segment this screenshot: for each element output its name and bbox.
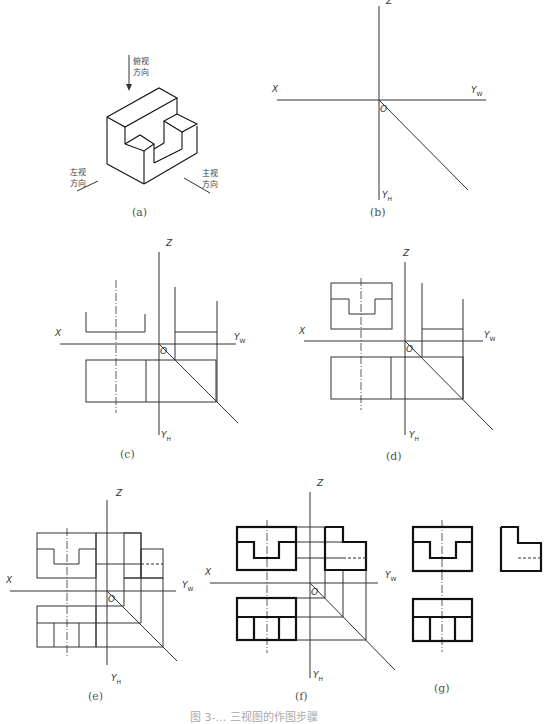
panel-label: (a) xyxy=(132,206,147,219)
origin-label: O xyxy=(406,344,413,354)
origin-label: O xyxy=(108,594,115,604)
origin-label: O xyxy=(160,346,167,356)
projection-axes xyxy=(260,0,545,230)
z-axis-label: Z xyxy=(166,238,172,248)
yh-axis-label: YH xyxy=(161,430,171,442)
panel-label: (f) xyxy=(295,690,308,703)
yh-axis-label: YH xyxy=(111,673,121,685)
x-axis-label: X xyxy=(205,567,211,577)
yw-axis-label: YW xyxy=(484,330,495,342)
yh-axis-label: YH xyxy=(382,190,392,202)
origin-label: O xyxy=(311,587,318,597)
panel-a: 俯视方向 左视方向 主视方向 (a) xyxy=(0,0,270,230)
figure-caption: 图 3-… 三视图的作图步骤 xyxy=(190,708,318,724)
isometric-block xyxy=(107,88,197,184)
panel-b: Z X YW O YH (b) xyxy=(260,0,545,230)
x-axis-label: X xyxy=(272,84,278,94)
z-axis-label: Z xyxy=(386,0,392,6)
projection-step-f xyxy=(195,470,395,700)
z-axis-label: Z xyxy=(403,248,409,258)
panel-f: Z X YW O YH (f) xyxy=(195,470,395,700)
left-view-note: 左视方向 xyxy=(70,167,86,189)
projection-step-c xyxy=(20,230,280,460)
yh-axis-label: YH xyxy=(409,430,419,442)
x-axis-label: X xyxy=(55,328,61,338)
origin-label: O xyxy=(380,104,387,114)
panel-g: (g) xyxy=(390,480,545,700)
yw-axis-label: YW xyxy=(234,332,245,344)
panel-label: (e) xyxy=(88,690,103,703)
arrow-head-icon xyxy=(126,84,132,91)
panel-label: (g) xyxy=(434,682,450,695)
panel-label: (b) xyxy=(370,206,386,219)
yw-axis-label: YW xyxy=(471,85,482,97)
top-view-note: 俯视方向 xyxy=(133,56,149,78)
yw-axis-label: YW xyxy=(182,580,193,592)
projection-step-e xyxy=(0,470,200,700)
panel-e: Z X YW O YH (e) xyxy=(0,470,200,700)
isometric-drawing xyxy=(0,0,270,230)
front-view-note: 主视方向 xyxy=(202,168,218,190)
panel-c: Z X YW O YH (c) xyxy=(20,230,280,460)
yh-axis-label: YH xyxy=(313,670,323,682)
panel-label: (d) xyxy=(386,450,402,463)
z-axis-label: Z xyxy=(116,488,122,498)
final-three-views xyxy=(390,480,545,700)
panel-label: (c) xyxy=(120,448,135,461)
x-axis-label: X xyxy=(299,326,305,336)
x-axis-label: X xyxy=(6,575,12,585)
z-axis-label: Z xyxy=(317,478,323,488)
panel-d: Z X YW O YH (d) xyxy=(280,230,545,460)
